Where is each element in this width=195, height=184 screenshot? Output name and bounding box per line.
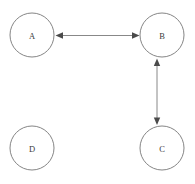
edge-a-b-arrowhead-right-icon <box>132 32 140 38</box>
node-b-label: B <box>159 31 165 41</box>
edge-b-c[interactable] <box>154 59 160 126</box>
graph-diagram-svg: A B C D <box>0 0 195 184</box>
node-b[interactable]: B <box>140 13 184 57</box>
edge-a-b-arrowhead-left-icon <box>56 32 64 38</box>
node-a[interactable]: A <box>10 13 54 57</box>
edge-b-c-arrowhead-down-icon <box>154 118 160 126</box>
node-c[interactable]: C <box>140 126 184 170</box>
node-a-label: A <box>29 31 36 41</box>
edge-b-c-arrowhead-up-icon <box>154 59 160 67</box>
graph-diagram-canvas: A B C D <box>0 0 195 184</box>
node-c-label: C <box>159 144 165 154</box>
edge-a-b[interactable] <box>56 32 140 38</box>
node-d-label: D <box>29 144 35 154</box>
node-d[interactable]: D <box>10 126 54 170</box>
